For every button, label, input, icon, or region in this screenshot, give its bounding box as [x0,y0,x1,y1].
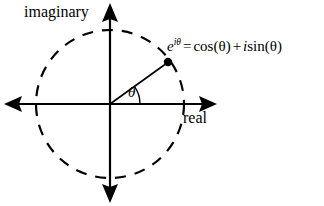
complex-plane-figure: imaginary real θ eiθ=cos(θ)+isin(θ) [0,0,324,206]
radius-vector [110,63,167,104]
real-axis-label: real [183,110,207,126]
formula-plus: + [231,38,243,54]
angle-theta-label: θ [128,85,135,100]
formula-sin-term: sin(θ) [247,38,282,54]
formula-exponent: iθ [174,37,181,47]
formula-base: e [167,38,174,54]
formula-equals: = [181,38,193,54]
euler-formula-label: eiθ=cos(θ)+isin(θ) [167,38,282,54]
formula-cos-term: cos(θ) [193,38,230,54]
point-marker [164,58,172,66]
imaginary-axis-label: imaginary [24,4,89,20]
unit-circle-diagram [0,0,324,206]
